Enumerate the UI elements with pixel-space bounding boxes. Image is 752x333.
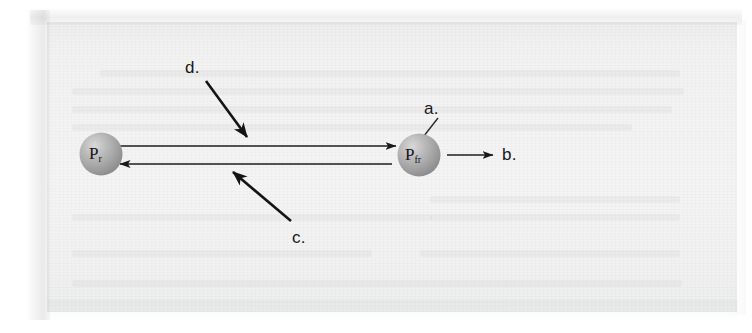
paper-texture (47, 22, 737, 312)
node-right-sphere-label: Pfr (405, 145, 421, 165)
scanned-page-surface (47, 22, 737, 312)
callout-d-label: d. (185, 58, 200, 78)
callout-b-label: b. (502, 145, 517, 165)
callout-a-label: a. (424, 99, 439, 119)
callout-c-label: c. (292, 228, 306, 248)
node-left-sphere-label: Pr (89, 144, 102, 164)
figure-page: Pr Pfr a. b. c. d. (0, 0, 752, 333)
